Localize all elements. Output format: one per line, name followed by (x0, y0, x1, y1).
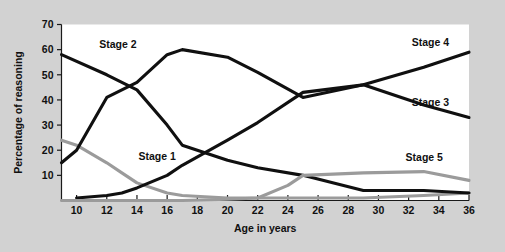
y-tick-label: 30 (42, 119, 54, 131)
x-tick-label: 22 (252, 204, 264, 216)
series-label-stage-2: Stage 2 (99, 38, 137, 50)
x-tick-label: 18 (191, 204, 203, 216)
y-tick-label: 40 (42, 94, 54, 106)
series-label-stage-4: Stage 4 (412, 36, 450, 48)
x-tick-label: 26 (312, 204, 324, 216)
x-tick-label: 16 (161, 204, 173, 216)
line-chart: 10203040506070 1012141618202224262830323… (0, 0, 505, 252)
x-tick-label: 14 (131, 204, 143, 216)
x-tick-label: 20 (222, 204, 234, 216)
y-tick-label: 10 (42, 169, 54, 181)
series-label-stage-1: Stage 1 (138, 150, 176, 162)
x-tick-label: 28 (342, 204, 354, 216)
series-label-stage-3: Stage 3 (412, 96, 450, 108)
x-tick-label: 32 (403, 204, 415, 216)
y-tick-label: 60 (42, 43, 54, 55)
x-tick-label: 30 (373, 204, 385, 216)
x-tick-label: 36 (463, 204, 475, 216)
series-label-stage-5: Stage 5 (406, 151, 444, 163)
x-tick-label: 34 (433, 204, 445, 216)
y-tick-label: 50 (42, 69, 54, 81)
chart-container: 10203040506070 1012141618202224262830323… (0, 0, 505, 252)
y-tick-label: 70 (42, 18, 54, 30)
y-tick-label: 20 (42, 144, 54, 156)
x-tick-label: 24 (282, 204, 294, 216)
x-tick-label: 10 (71, 204, 83, 216)
y-axis-title: Percentage of reasoning (12, 51, 24, 174)
x-tick-label: 12 (101, 204, 113, 216)
x-axis-title: Age in years (234, 222, 297, 234)
